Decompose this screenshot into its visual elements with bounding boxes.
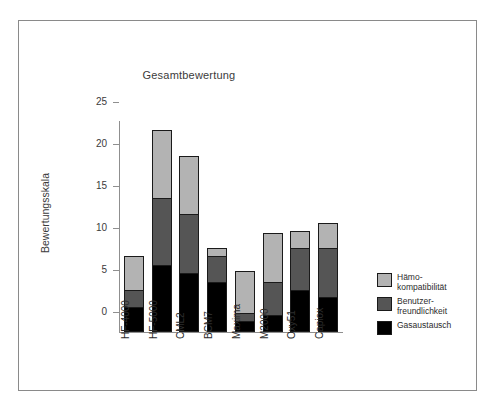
y-axis-tick-mark <box>113 270 119 271</box>
x-axis-tick-label: Capiox <box>314 308 325 339</box>
chart-legend: Hämo- kompatibilitätBenutzer- freundlich… <box>377 272 497 339</box>
bar-group[interactable] <box>207 122 227 332</box>
legend-label: Hämo- kompatibilität <box>397 272 447 292</box>
legend-swatch-icon <box>377 273 392 287</box>
x-axis-tick-label: M2000 <box>259 308 270 339</box>
x-axis-tick-label: Maxima <box>231 304 242 339</box>
y-axis-tick-label: 0 <box>67 306 107 317</box>
legend-swatch-icon <box>377 321 392 335</box>
bar-segment-h-mokompatibilit-t[interactable] <box>152 130 172 197</box>
legend-swatch-icon <box>377 297 392 311</box>
bar-group[interactable] <box>235 122 255 332</box>
legend-label: Gasaustausch <box>397 320 451 330</box>
x-axis-tick-label: CML2 <box>175 312 186 339</box>
bar-segment-benutzerfreundlichkeit[interactable] <box>207 256 227 281</box>
screenshot-page: Gesamtbewertung 0510152025 Bewertungsska… <box>0 0 497 411</box>
bar-segment-h-mokompatibilit-t[interactable] <box>124 256 144 290</box>
y-axis-tick-mark <box>113 144 119 145</box>
bar-segment-benutzerfreundlichkeit[interactable] <box>318 248 338 297</box>
legend-item[interactable]: Hämo- kompatibilität <box>377 272 497 292</box>
figure-frame: Gesamtbewertung 0510152025 Bewertungsska… <box>18 20 477 391</box>
x-axis-tick-label: HF-5000 <box>148 300 159 339</box>
y-axis-tick-label: 10 <box>67 222 107 233</box>
legend-label: Benutzer- freundlichkeit <box>397 296 447 316</box>
bar-group[interactable] <box>179 122 199 332</box>
bar-segment-h-mokompatibilit-t[interactable] <box>179 156 199 215</box>
bar-segment-h-mokompatibilit-t[interactable] <box>290 231 310 248</box>
chart-title: Gesamtbewertung <box>19 69 359 81</box>
bar-group[interactable] <box>290 122 310 332</box>
x-axis-tick-label: HF-4000 <box>120 300 131 339</box>
x-axis-tick-label: Oxy51 <box>286 310 297 339</box>
bar-group[interactable] <box>263 122 283 332</box>
bar-segment-benutzerfreundlichkeit[interactable] <box>179 214 199 273</box>
bar-group[interactable] <box>318 122 338 332</box>
y-axis-tick-label: 25 <box>67 96 107 107</box>
bar-segment-benutzerfreundlichkeit[interactable] <box>152 198 172 265</box>
y-axis-tick-mark <box>113 312 119 313</box>
legend-item[interactable]: Benutzer- freundlichkeit <box>377 296 497 316</box>
y-axis-tick-mark <box>113 228 119 229</box>
bar-segment-h-mokompatibilit-t[interactable] <box>263 233 283 282</box>
bar-segment-h-mokompatibilit-t[interactable] <box>207 248 227 256</box>
y-axis-label: Bewertungsskala <box>39 153 51 273</box>
x-axis-tick-label: BCM7 <box>203 311 214 339</box>
legend-item[interactable]: Gasaustausch <box>377 320 497 335</box>
y-axis-tick-mark <box>113 102 119 103</box>
y-axis-tick-label: 5 <box>67 264 107 275</box>
y-axis-tick-label: 15 <box>67 180 107 191</box>
y-axis-tick-label: 20 <box>67 138 107 149</box>
y-axis-tick-mark <box>113 186 119 187</box>
bar-segment-h-mokompatibilit-t[interactable] <box>318 223 338 248</box>
bar-segment-benutzerfreundlichkeit[interactable] <box>290 248 310 290</box>
stacked-bar[interactable] <box>179 156 199 332</box>
